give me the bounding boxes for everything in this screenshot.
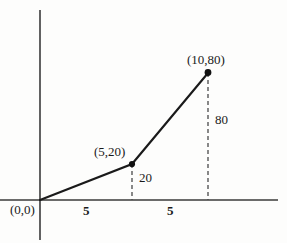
run-label-second: 5	[167, 204, 174, 217]
point-label-10-80: (10,80)	[187, 53, 225, 66]
rise-label-80: 80	[215, 113, 228, 126]
plot-canvas	[0, 0, 287, 243]
point-label-5-20: (5,20)	[94, 145, 125, 158]
rise-label-20: 20	[139, 171, 152, 184]
origin-label: (0,0)	[10, 203, 35, 216]
data-point-10-80	[205, 69, 212, 76]
data-point-5-20	[129, 161, 135, 167]
graph-figure: (0,0) (5,20) (10,80) 20 80 5 5	[0, 0, 287, 243]
run-label-first: 5	[83, 204, 90, 217]
piecewise-line	[40, 73, 208, 200]
